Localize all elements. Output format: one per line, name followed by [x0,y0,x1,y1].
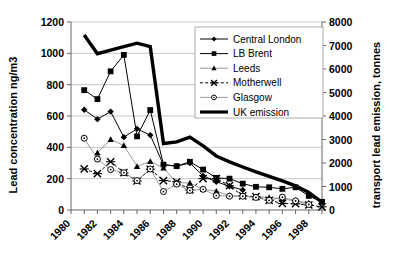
y2-tick-label: 4000 [329,110,353,122]
y2-tick-label: 5000 [329,87,353,99]
chart-legend: Central LondonLB BrentLeedsMotherwellGla… [195,27,323,118]
y-tick-label: 1000 [41,47,65,59]
x-tick-label: 1986 [127,217,152,242]
y-tick-label: 0 [58,204,64,216]
lead-concentration-chart: 020040060080010001200 010002000300040005… [0,0,395,261]
y2-tick-label: 2000 [329,157,353,169]
y2-tick-label: 3000 [329,134,353,146]
legend-label: UK emission [233,107,289,118]
x-tick-label: 1998 [285,217,310,242]
chart-canvas: 020040060080010001200 010002000300040005… [0,0,395,261]
y2-tick-label: 1000 [329,181,353,193]
y-tick-label: 200 [46,173,64,185]
y2-axis-title: transport lead emission, tonnes [370,42,382,208]
x-tick-label: 1982 [74,217,99,242]
y2-tick-label: 8000 [329,16,353,28]
legend-label: LB Brent [233,48,272,59]
x-tick-label: 1994 [232,217,257,242]
x-axis-tick-labels: 1980198219841986198819901992199419961998 [47,217,310,242]
legend-label: Leeds [233,63,260,74]
x-tick-label: 1996 [259,217,284,242]
legend-label: Central London [233,34,301,45]
x-tick-label: 1988 [153,217,178,242]
y-tick-label: 800 [46,79,64,91]
x-tick-label: 1984 [100,217,125,242]
x-tick-label: 1992 [206,217,231,242]
y-tick-label: 600 [46,110,64,122]
y2-tick-label: 7000 [329,40,353,52]
y-tick-label: 1200 [41,16,65,28]
y2-tick-label: 0 [329,204,335,216]
legend-label: Motherwell [233,77,281,88]
y-axis-tick-labels: 020040060080010001200 [41,16,65,216]
series-glasgow [81,135,312,207]
y2-tick-label: 6000 [329,63,353,75]
x-tick-label: 1990 [180,217,205,242]
y-tick-label: 400 [46,141,64,153]
y-axis-title: Lead concentration ng/m3 [7,57,19,194]
x-tick-label: 1980 [47,217,72,242]
y2-axis-tick-labels: 010002000300040005000600070008000 [329,16,353,216]
legend-label: Glasgow [233,92,273,103]
